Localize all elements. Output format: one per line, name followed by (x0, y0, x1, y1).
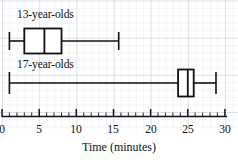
boxplot-17-year-olds (9, 70, 216, 97)
x-axis-title: Time (minutes) (0, 140, 238, 155)
x-tick-label-5: 5 (36, 123, 42, 135)
x-tick-label-15: 15 (107, 123, 119, 135)
x-tick-label-20: 20 (145, 123, 157, 135)
x-tick-label-0: 0 (0, 123, 5, 135)
series-label-13-year-olds: 13-year-olds (17, 8, 74, 20)
x-tick-label-25: 25 (182, 123, 194, 135)
boxplot-figure: 13-year-olds 17-year-olds 0 5 10 15 20 2… (0, 0, 238, 162)
x-tick-label-30: 30 (219, 123, 231, 135)
series-label-17-year-olds: 17-year-olds (17, 58, 74, 70)
boxplot-drawing (0, 0, 238, 162)
x-tick-label-10: 10 (70, 123, 82, 135)
x-axis (2, 109, 227, 117)
boxplot-13-year-olds (9, 29, 118, 54)
